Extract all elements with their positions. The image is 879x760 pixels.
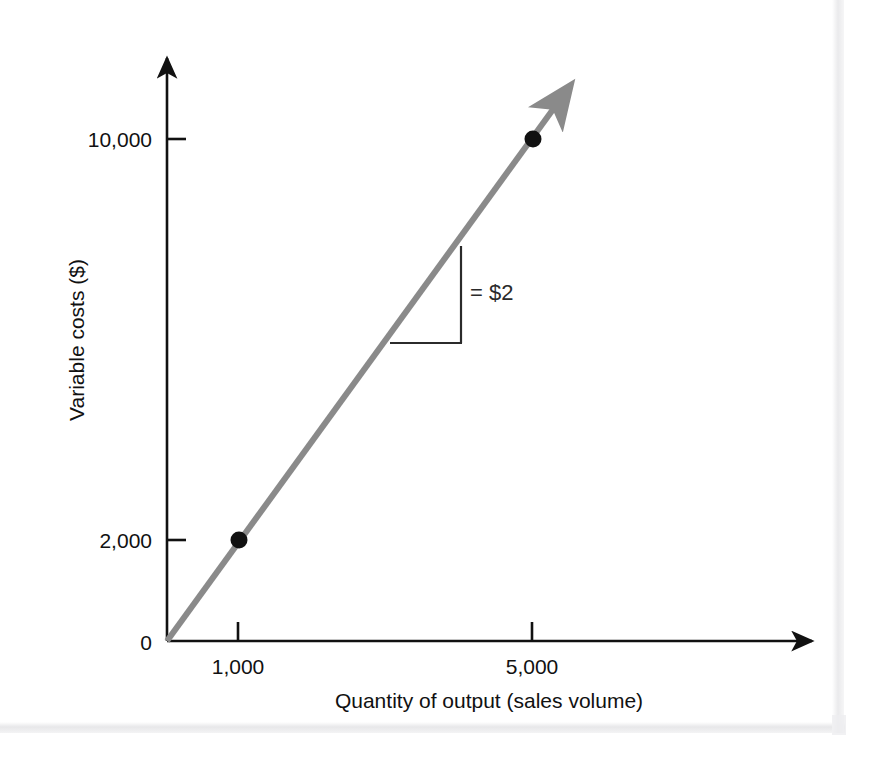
- axis-lines: [167, 58, 812, 641]
- slope-triangle: [390, 246, 462, 343]
- data-point-1000-2000: [231, 532, 248, 549]
- variable-cost-line: [167, 86, 570, 641]
- x-axis-title: Quantity of output (sales volume): [335, 689, 643, 712]
- variable-cost-chart: 10,000 2,000 0 1,000 5,000 = $2 Variable…: [0, 0, 879, 760]
- figure-container: 10,000 2,000 0 1,000 5,000 = $2 Variable…: [0, 0, 879, 760]
- y-tick-label-10000: 10,000: [88, 128, 152, 151]
- x-tick-label-5000: 5,000: [506, 655, 559, 678]
- x-tick-label-1000: 1,000: [212, 655, 265, 678]
- data-point-5000-10000: [525, 131, 542, 148]
- slope-label: = $2: [470, 280, 513, 305]
- origin-label: 0: [140, 631, 152, 654]
- y-tick-label-2000: 2,000: [99, 529, 152, 552]
- y-axis-ticks: [167, 139, 186, 540]
- y-axis-title: Variable costs ($): [65, 259, 88, 421]
- x-axis-ticks: [238, 622, 532, 641]
